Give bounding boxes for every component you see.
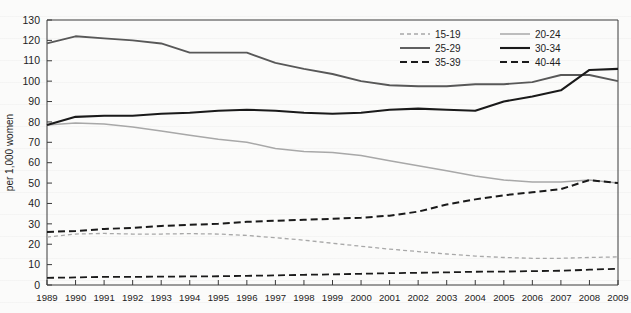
x-axis-tick-label: 2008 <box>579 292 600 303</box>
series-line-20-24 <box>47 123 618 183</box>
y-axis-tick-label: 130 <box>22 14 40 26</box>
x-axis-tick-label: 2009 <box>607 292 628 303</box>
x-axis-tick-label: 1992 <box>122 292 143 303</box>
y-axis-tick-label: 30 <box>28 218 40 230</box>
series-line-30-34 <box>47 69 618 125</box>
y-axis-tick-label: 60 <box>28 156 40 168</box>
x-axis-tick-label: 1996 <box>236 292 257 303</box>
x-axis-tick-label: 1989 <box>36 292 57 303</box>
x-axis-tick-label: 2002 <box>407 292 428 303</box>
x-axis-tick-label: 1997 <box>265 292 286 303</box>
series-line-35-39 <box>47 180 618 232</box>
x-axis-tick-label: 2003 <box>436 292 457 303</box>
x-axis-tick-label: 2005 <box>493 292 514 303</box>
y-axis-tick-label: 100 <box>22 75 40 87</box>
y-axis-tick-label: 110 <box>23 54 40 66</box>
series-line-40-44 <box>47 269 618 278</box>
legend-label-35-39: 35-39 <box>435 57 461 68</box>
y-axis-tick-label: 40 <box>28 197 40 209</box>
y-axis-tick-label: 20 <box>28 238 40 250</box>
chart-canvas: 0102030405060708090100110120130per 1,000… <box>0 0 631 313</box>
series-line-15-19 <box>47 233 618 258</box>
legend-label-20-24: 20-24 <box>535 29 561 40</box>
x-axis-tick-label: 1994 <box>179 292 201 303</box>
legend-label-25-29: 25-29 <box>435 43 461 54</box>
x-axis-tick-label: 1999 <box>322 292 343 303</box>
y-axis-tick-label: 0 <box>34 279 40 291</box>
y-axis-tick-label: 70 <box>28 136 40 148</box>
x-axis-tick-label: 1990 <box>65 292 86 303</box>
legend-label-30-34: 30-34 <box>535 43 561 54</box>
y-axis-tick-label: 10 <box>28 258 40 270</box>
legend-label-40-44: 40-44 <box>535 57 561 68</box>
y-axis-tick-label: 80 <box>28 116 40 128</box>
y-axis-title: per 1,000 women <box>4 114 15 191</box>
x-axis-tick-label: 2006 <box>522 292 543 303</box>
y-axis-tick-label: 90 <box>28 95 40 107</box>
y-axis-tick-label: 50 <box>28 177 40 189</box>
x-axis-tick-label: 2001 <box>379 292 400 303</box>
y-axis-tick-label: 120 <box>22 34 40 46</box>
x-axis-tick-label: 1993 <box>151 292 172 303</box>
x-axis-tick-label: 1995 <box>208 292 229 303</box>
x-axis-tick-label: 1991 <box>93 292 114 303</box>
x-axis-tick-label: 2007 <box>550 292 571 303</box>
x-axis-tick-label: 2000 <box>350 292 371 303</box>
x-axis-tick-label: 2004 <box>465 292 487 303</box>
line-chart: 0102030405060708090100110120130per 1,000… <box>0 0 631 313</box>
series-line-25-29 <box>47 36 618 86</box>
x-axis-tick-label: 1998 <box>293 292 314 303</box>
legend-label-15-19: 15-19 <box>435 29 461 40</box>
